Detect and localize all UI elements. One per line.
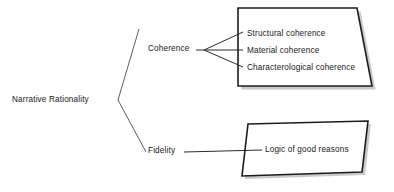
node-label-coherence: Coherence <box>148 44 189 54</box>
leaf-label-structural-coherence: Structural coherence <box>247 29 326 39</box>
coherence-connector-structural <box>204 32 243 50</box>
leaf-label-characterological-coherence: Characterological coherence <box>247 63 355 73</box>
leaf-label-logic-of-good-reasons: Logic of good reasons <box>265 145 349 155</box>
coherence-connector-characterological <box>204 50 243 67</box>
leaf-label-material-coherence: Material coherence <box>247 46 319 56</box>
node-label-narrative-rationality: Narrative Rationality <box>12 95 89 105</box>
root-fork-connector <box>118 29 146 152</box>
node-label-fidelity: Fidelity <box>148 146 175 156</box>
narrative-rationality-diagram: Narrative Rationality Coherence Fidelity… <box>0 0 394 192</box>
